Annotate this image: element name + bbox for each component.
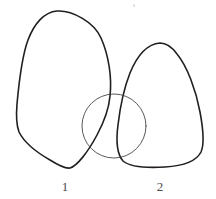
- figure-root: 1 2: [0, 0, 216, 199]
- figure-canvas: [0, 0, 216, 199]
